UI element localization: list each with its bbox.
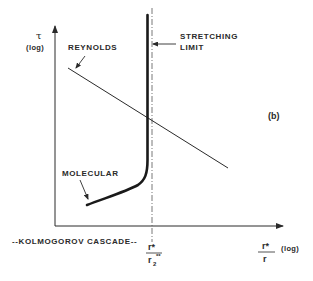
panel-label: (b) — [268, 111, 280, 121]
x-axis-numerator: r* — [262, 241, 270, 251]
molecular-pointer-arrow — [80, 180, 88, 199]
marker-numerator: r* — [148, 242, 156, 252]
x-axis-denominator: r — [263, 254, 267, 264]
x-axis-scale: (log) — [281, 244, 299, 253]
marker-denominator-sub: 2 — [153, 261, 157, 267]
marker-denominator: r — [148, 255, 152, 265]
kolmogorov-cascade-label: --KOLMOGOROV CASCADE-- — [12, 237, 137, 246]
stretching-label: STRETCHING — [180, 32, 238, 41]
marker-denominator-sup: ** — [156, 253, 161, 259]
molecular-label: MOLECULAR — [62, 169, 119, 178]
y-axis-scale: (log) — [26, 43, 44, 52]
limit-label: LIMIT — [180, 43, 204, 52]
reynolds-label: REYNOLDS — [68, 43, 117, 52]
diagram-svg: τ (log) REYNOLDS STRETCHING LIMIT MOLECU… — [0, 0, 313, 281]
y-axis-symbol: τ — [36, 30, 42, 41]
diagram-canvas: τ (log) REYNOLDS STRETCHING LIMIT MOLECU… — [0, 0, 313, 281]
reynolds-pointer-arrow — [76, 56, 85, 68]
